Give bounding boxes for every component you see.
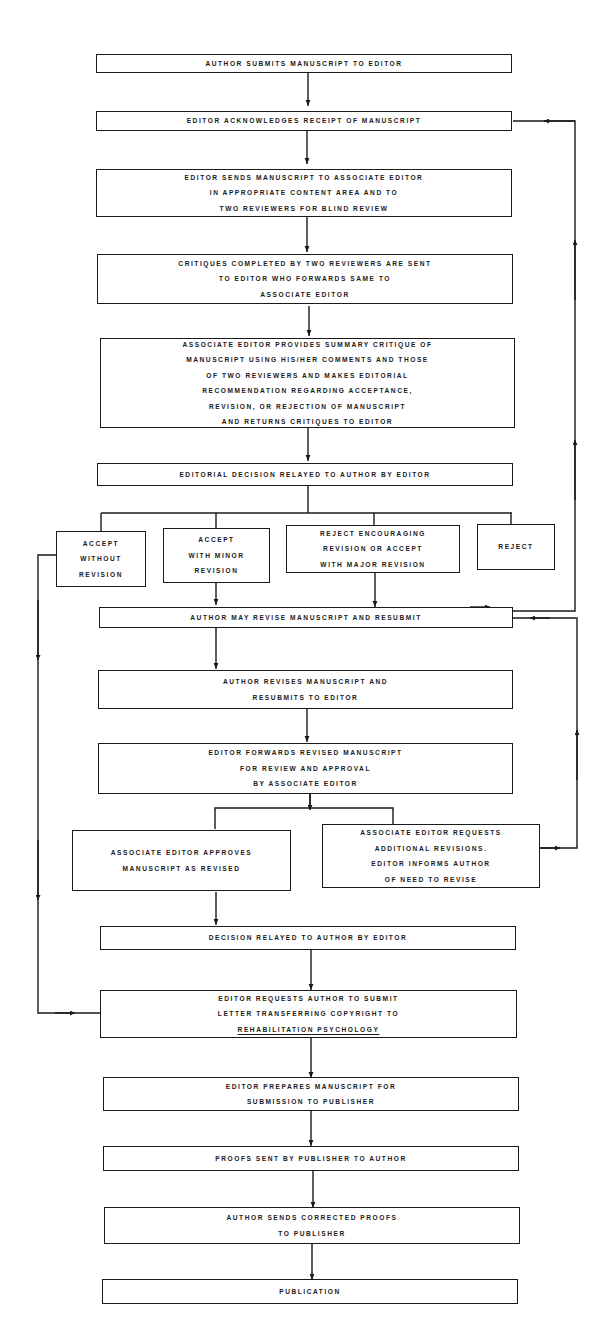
node-text: WITH MINOR [188,548,244,564]
node-text: WITHOUT [80,551,122,567]
node-text: REVISION, OR REJECTION OF MANUSCRIPT [209,399,406,415]
node-text: MANUSCRIPT AS REVISED [122,861,240,877]
node-text: EDITOR SENDS MANUSCRIPT TO ASSOCIATE EDI… [185,170,424,186]
node-text: ACCEPT [83,536,119,552]
node-author-may-revise: AUTHOR MAY REVISE MANUSCRIPT AND RESUBMI… [99,607,513,628]
node-text: EDITOR REQUESTS AUTHOR TO SUBMIT [218,991,398,1007]
node-editor-prepares: EDITOR PREPARES MANUSCRIPT FOR SUBMISSIO… [103,1077,519,1111]
node-text: TWO REVIEWERS FOR BLIND REVIEW [220,201,389,217]
node-text: REJECT ENCOURAGING [320,526,426,542]
node-accept-without-revision: ACCEPT WITHOUT REVISION [56,531,146,587]
node-text: OF TWO REVIEWERS AND MAKES EDITORIAL [206,368,408,384]
node-accept-minor-revision: ACCEPT WITH MINOR REVISION [163,528,270,583]
node-text: EDITOR FORWARDS REVISED MANUSCRIPT [208,745,402,761]
node-text: REVISION OR ACCEPT [323,541,423,557]
node-text: TO PUBLISHER [278,1226,346,1242]
node-reject-encouraging-revision: REJECT ENCOURAGING REVISION OR ACCEPT WI… [286,525,460,573]
node-text: BY ASSOCIATE EDITOR [253,776,358,792]
node-text: EDITOR ACKNOWLEDGES RECEIPT OF MANUSCRIP… [187,113,422,129]
journal-title: REHABILITATION PSYCHOLOGY [238,1022,380,1038]
node-text: PROOFS SENT BY PUBLISHER TO AUTHOR [215,1151,406,1167]
node-editorial-decision: EDITORIAL DECISION RELAYED TO AUTHOR BY … [97,463,513,486]
node-text: FOR REVIEW AND APPROVAL [240,761,371,777]
node-text: PUBLICATION [279,1284,341,1300]
node-author-sends-corrected: AUTHOR SENDS CORRECTED PROOFS TO PUBLISH… [104,1207,520,1244]
node-decision-relayed: DECISION RELAYED TO AUTHOR BY EDITOR [100,926,516,950]
node-text: AUTHOR SUBMITS MANUSCRIPT TO EDITOR [205,56,402,72]
node-text: AUTHOR MAY REVISE MANUSCRIPT AND RESUBMI… [190,610,421,626]
node-reject: REJECT [477,524,555,570]
node-text: REJECT [498,539,533,555]
node-text: IN APPROPRIATE CONTENT AREA AND TO [210,185,399,201]
node-text: MANUSCRIPT USING HIS/HER COMMENTS AND TH… [186,352,429,368]
node-proofs-sent: PROOFS SENT BY PUBLISHER TO AUTHOR [103,1146,519,1171]
node-critiques-completed: CRITIQUES COMPLETED BY TWO REVIEWERS ARE… [97,254,513,304]
node-text: AUTHOR REVISES MANUSCRIPT AND [223,674,388,690]
node-associate-approves: ASSOCIATE EDITOR APPROVES MANUSCRIPT AS … [72,830,291,891]
node-editor-sends-to-reviewers: EDITOR SENDS MANUSCRIPT TO ASSOCIATE EDI… [96,169,512,217]
node-text: OF NEED TO REVISE [385,872,478,888]
node-editor-acknowledges: EDITOR ACKNOWLEDGES RECEIPT OF MANUSCRIP… [96,111,512,131]
node-text: DECISION RELAYED TO AUTHOR BY EDITOR [209,930,408,946]
flowchart-canvas: AUTHOR SUBMITS MANUSCRIPT TO EDITOR EDIT… [0,0,604,1344]
node-text: ADDITIONAL REVISIONS. [375,841,488,857]
node-copyright-transfer: EDITOR REQUESTS AUTHOR TO SUBMIT LETTER … [100,990,517,1038]
node-text: LETTER TRANSFERRING COPYRIGHT TO [218,1006,399,1022]
node-text: EDITORIAL DECISION RELAYED TO AUTHOR BY … [179,467,430,483]
node-editor-forwards-revised: EDITOR FORWARDS REVISED MANUSCRIPT FOR R… [98,743,513,794]
node-text: ASSOCIATE EDITOR PROVIDES SUMMARY CRITIQ… [182,337,432,353]
node-associate-editor-summary: ASSOCIATE EDITOR PROVIDES SUMMARY CRITIQ… [100,338,515,428]
node-text: AND RETURNS CRITIQUES TO EDITOR [222,414,393,430]
node-text: ASSOCIATE EDITOR REQUESTS [360,825,501,841]
node-text: ACCEPT [198,532,234,548]
node-text: SUBMISSION TO PUBLISHER [247,1094,375,1110]
node-text: TO EDITOR WHO FORWARDS SAME TO [219,271,391,287]
node-text: AUTHOR SENDS CORRECTED PROOFS [227,1210,398,1226]
node-text: EDITOR INFORMS AUTHOR [371,856,490,872]
node-text: ASSOCIATE EDITOR APPROVES [111,845,253,861]
node-text: RECOMMENDATION REGARDING ACCEPTANCE, [202,383,413,399]
node-text: REVISION [195,563,239,579]
node-text: RESUBMITS TO EDITOR [253,690,359,706]
node-author-submits: AUTHOR SUBMITS MANUSCRIPT TO EDITOR [96,54,512,73]
node-text: REVISION [79,567,123,583]
node-text: WITH MAJOR REVISION [320,557,425,573]
node-associate-requests-revisions: ASSOCIATE EDITOR REQUESTS ADDITIONAL REV… [322,824,540,888]
node-text: ASSOCIATE EDITOR [260,287,349,303]
node-publication: PUBLICATION [102,1279,518,1304]
node-author-revises: AUTHOR REVISES MANUSCRIPT AND RESUBMITS … [98,670,513,709]
node-text: CRITIQUES COMPLETED BY TWO REVIEWERS ARE… [178,256,431,272]
node-text: EDITOR PREPARES MANUSCRIPT FOR [226,1079,396,1095]
